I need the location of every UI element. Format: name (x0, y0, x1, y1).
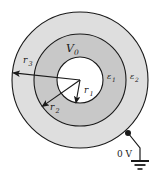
svg-text:2: 2 (134, 76, 139, 83)
svg-text:1: 1 (90, 90, 94, 98)
svg-text:3: 3 (29, 60, 33, 68)
svg-text:r: r (50, 102, 55, 112)
svg-text:r: r (84, 85, 89, 95)
svg-text:ε: ε (107, 72, 111, 81)
concentric-shells-diagram: V 0 ε 1 ε 2 r 3 r 2 r 1 (0, 0, 155, 177)
svg-text:2: 2 (55, 107, 60, 115)
svg-text:r: r (23, 55, 28, 65)
svg-text:1: 1 (112, 76, 116, 83)
earth-ground-icon (131, 161, 149, 169)
physics-figure: V 0 ε 1 ε 2 r 3 r 2 r 1 (0, 0, 155, 177)
svg-text:0: 0 (74, 48, 79, 57)
ground-voltage-label: 0 V (117, 149, 133, 159)
svg-text:ε: ε (130, 72, 134, 81)
